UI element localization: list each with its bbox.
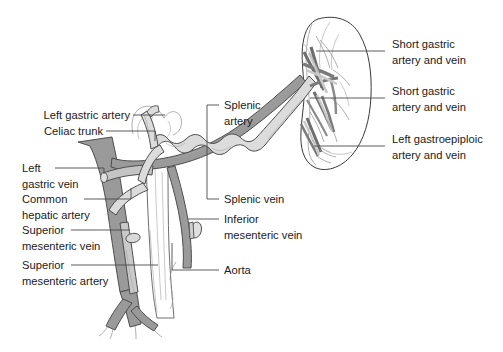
leader-left-gastric-vein [55,168,104,174]
label-superior-mesenteric-vein: Superior mesenteric vein [22,224,100,252]
spleen [301,17,371,169]
abdominal-aorta [146,160,174,318]
leader-aorta [172,243,219,270]
svg-text:hepatic artery: hepatic artery [22,209,90,221]
label-common-hepatic-artery: Common hepatic artery [22,193,90,221]
svg-text:Left gastroepiploic: Left gastroepiploic [392,133,483,145]
label-celiac-trunk: Celiac trunk [44,125,103,137]
svg-text:Left: Left [22,162,42,174]
label-left-gastric-vein: Left gastric vein [22,162,79,190]
svg-text:Short gastric: Short gastric [392,38,455,50]
label-left-gastric-artery: Left gastric artery [44,109,131,121]
anatomy-figure: Left gastric artery Celiac trunk Left ga… [0,0,503,352]
svg-text:mesenteric artery: mesenteric artery [22,275,109,287]
svg-text:artery and vein: artery and vein [392,149,466,161]
svg-text:mesenteric vein: mesenteric vein [22,240,100,252]
svg-text:mesenteric vein: mesenteric vein [224,229,302,241]
label-aorta: Aorta [224,264,252,276]
svg-text:artery: artery [224,115,253,127]
svg-text:artery and vein: artery and vein [392,54,466,66]
label-splenic-vein: Splenic vein [224,193,284,205]
svg-text:Common: Common [22,193,67,205]
svg-text:Splenic: Splenic [224,99,261,111]
svg-text:Superior: Superior [22,224,65,236]
label-short-gastric-lower: Short gastric artery and vein [392,85,466,113]
label-superior-mesenteric-artery: Superior mesenteric artery [22,259,109,287]
left-gastric-artery [141,106,159,149]
svg-text:gastric vein: gastric vein [22,178,79,190]
svg-text:Inferior: Inferior [224,213,259,225]
svg-text:Short gastric: Short gastric [392,85,455,97]
svg-text:Superior: Superior [22,259,65,271]
label-inferior-mesenteric-vein: Inferior mesenteric vein [224,213,302,241]
label-short-gastric-upper: Short gastric artery and vein [392,38,466,66]
label-left-gastroepiploic: Left gastroepiploic artery and vein [392,133,483,161]
svg-text:artery and vein: artery and vein [392,101,466,113]
